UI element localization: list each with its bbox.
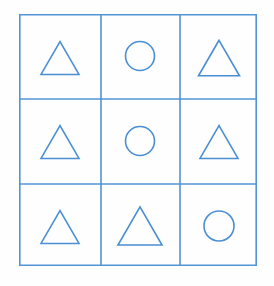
triangle-shape (41, 42, 79, 75)
triangle-shape (41, 211, 79, 244)
circle-shape (126, 127, 155, 156)
shape-grid-figure (19, 14, 257, 266)
triangle-shape (200, 126, 238, 159)
circle-shape (204, 211, 234, 241)
shape-grid-svg (19, 14, 257, 266)
grid-shapes (41, 40, 240, 245)
triangle-shape (199, 40, 240, 76)
triangle-shape (118, 207, 162, 245)
circle-shape (126, 42, 155, 71)
triangle-shape (41, 126, 79, 159)
grid-lines (20, 15, 256, 265)
